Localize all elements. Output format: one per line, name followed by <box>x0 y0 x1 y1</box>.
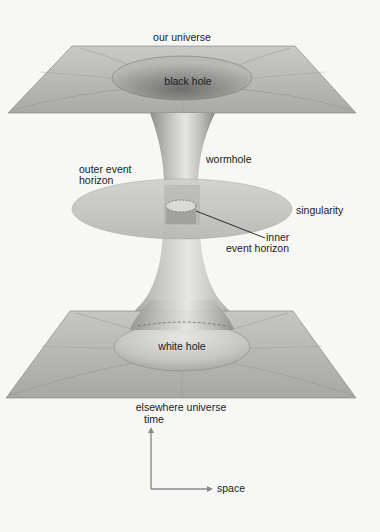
outer-event-horizon-label-line2: horizon <box>79 175 113 186</box>
white-hole-label: white hole <box>158 341 205 352</box>
space-axis-label: space <box>217 483 245 494</box>
black-hole-label: black hole <box>164 76 211 87</box>
spacetime-axes <box>148 427 213 492</box>
wormhole-diagram: our universe black hole wormhole outer e… <box>0 0 380 532</box>
wormhole-label: wormhole <box>206 154 252 165</box>
inner-event-horizon-hole <box>166 200 196 212</box>
our-universe-label: our universe <box>153 32 211 43</box>
time-axis-label: time <box>144 414 164 425</box>
singularity-label: singularity <box>296 205 343 216</box>
space-arrow-icon <box>207 486 213 492</box>
time-arrow-icon <box>148 427 154 433</box>
wormhole-upper-throat <box>150 113 215 185</box>
elsewhere-universe-label: elsewhere universe <box>136 402 226 413</box>
inner-event-horizon-label-line2: event horizon <box>226 243 289 254</box>
